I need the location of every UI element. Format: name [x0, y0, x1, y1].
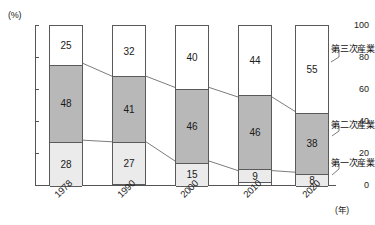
- bar-2000[interactable]: 40 46 15: [175, 25, 209, 185]
- legend-item-tertiary[interactable]: 第三次産業: [331, 42, 375, 55]
- y-tick-mark: [35, 153, 39, 154]
- y-tick-mark: [35, 121, 39, 122]
- bar-2020[interactable]: 55 38 8: [295, 25, 329, 185]
- segment-secondary: 38: [296, 113, 328, 174]
- y-tick-mark: [35, 25, 39, 26]
- chart-title-cropped: [26, 0, 256, 2]
- bar-1990[interactable]: 32 41 27: [112, 25, 146, 185]
- y-tick-mark: [35, 57, 39, 58]
- y-tick-label-60: 60: [345, 85, 369, 94]
- segment-tertiary: 25: [50, 25, 82, 65]
- legend-item-secondary[interactable]: 第二次産業: [331, 118, 375, 131]
- segment-secondary: 48: [50, 65, 82, 142]
- segment-tertiary: 44: [239, 25, 271, 95]
- segment-secondary: 46: [176, 89, 208, 163]
- y-tick-mark: [35, 89, 39, 90]
- y-tick-label-100: 100: [345, 21, 369, 30]
- x-axis-unit-label: (年): [335, 203, 349, 215]
- segment-tertiary: 55: [296, 25, 328, 113]
- segment-secondary: 41: [113, 76, 145, 142]
- segment-secondary: 46: [239, 95, 271, 169]
- y-axis-line: [35, 25, 36, 185]
- bar-1978[interactable]: 25 48 28: [49, 25, 83, 185]
- y-axis-unit-label: (%): [8, 10, 21, 20]
- y-tick-label-0: 0: [345, 181, 369, 190]
- segment-tertiary: 40: [176, 25, 208, 89]
- y-tick-mark: [35, 185, 39, 186]
- segment-tertiary: 32: [113, 25, 145, 76]
- bar-2010[interactable]: 44 46 9: [238, 25, 272, 185]
- legend-item-primary[interactable]: 第一次産業: [331, 156, 375, 169]
